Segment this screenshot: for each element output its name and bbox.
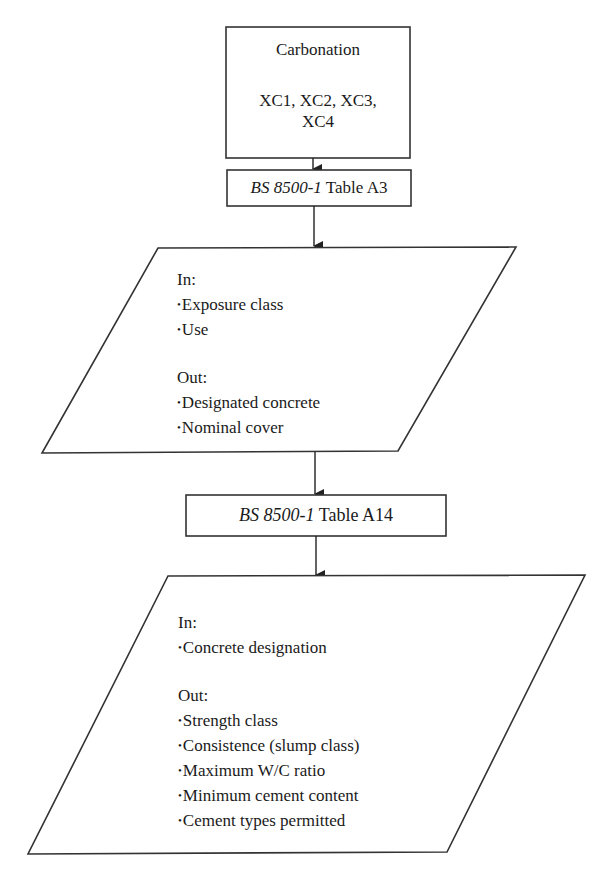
in-label: In: <box>177 268 320 292</box>
in-item: Concrete designation <box>178 635 359 660</box>
out-item: Maximum W/C ratio <box>178 758 359 783</box>
process-a3-content: In: Exposure class Use Out: Designated c… <box>177 268 320 440</box>
in-item: Exposure class <box>177 292 320 317</box>
out-item: Cement types permitted <box>178 808 359 833</box>
in-item: Use <box>177 317 320 342</box>
standard-name: BS 8500-1 <box>251 178 322 197</box>
out-item: Nominal cover <box>177 415 320 440</box>
table-name: Table A3 <box>326 178 388 197</box>
out-item: Minimum cement content <box>178 783 359 808</box>
standard-name: BS 8500-1 <box>239 505 315 525</box>
table-a3-label: BS 8500-1 Table A3 <box>227 176 411 200</box>
out-label: Out: <box>177 366 320 390</box>
exposure-classes-line2: XC4 <box>226 110 410 134</box>
carbonation-title: Carbonation <box>226 38 410 62</box>
out-label: Out: <box>178 684 359 708</box>
in-label: In: <box>178 611 359 635</box>
out-item: Designated concrete <box>177 390 320 415</box>
out-item: Strength class <box>178 708 359 733</box>
out-item: Consistence (slump class) <box>178 733 359 758</box>
table-a14-label: BS 8500-1 Table A14 <box>186 503 446 527</box>
table-name: Table A14 <box>319 505 393 525</box>
process-a14-content: In: Concrete designation Out: Strength c… <box>178 611 359 833</box>
